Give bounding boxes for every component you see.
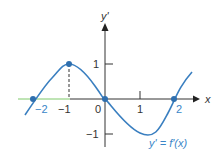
y-tick-label-m1: −1 [86,128,99,140]
y-tick-label-1: 1 [93,58,99,70]
y-axis-label: y' [100,10,110,22]
point-0-0 [102,96,108,102]
point-m1-1 [66,61,72,67]
x-tick-label-0: 0 [95,103,101,115]
x-tick-label-m1: −1 [58,103,71,115]
x-axis-label: x [204,93,211,105]
curve-label: y' = f'(x) [148,137,187,149]
derivative-chart: y' x −2 −1 0 1 2 1 −1 y' = f'(x) [0,0,219,155]
x-tick-label-m2: −2 [35,103,48,115]
x-tick-label-1: 1 [137,103,143,115]
derivative-curve [25,64,192,135]
point-m2-0 [30,96,36,102]
y-axis-arrow-icon [102,23,109,31]
x-tick-label-2: 2 [176,103,182,115]
x-axis-arrow-icon [193,96,200,103]
point-2-0 [171,96,177,102]
